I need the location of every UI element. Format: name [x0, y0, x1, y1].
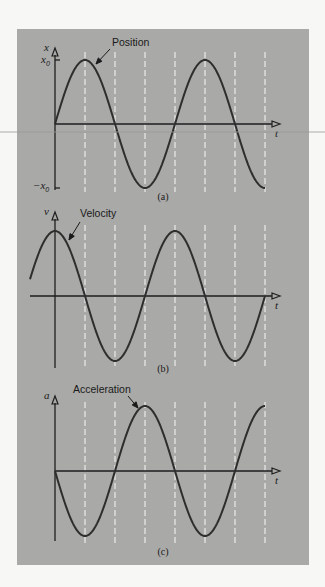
y-axis-label: x [43, 41, 49, 53]
caption-b: (b) [157, 363, 169, 375]
y-axis-label: a [44, 389, 50, 401]
caption-c: (c) [157, 546, 168, 558]
y-axis-label: v [44, 205, 49, 217]
caption-a: (a) [157, 191, 168, 203]
acceleration-label: Acceleration [73, 383, 131, 395]
velocity-label: Velocity [80, 207, 117, 219]
shm-figure: xtx0−x0Position(a)vtVelocity(b)atAcceler… [0, 0, 325, 587]
position-label: Position [112, 36, 150, 48]
